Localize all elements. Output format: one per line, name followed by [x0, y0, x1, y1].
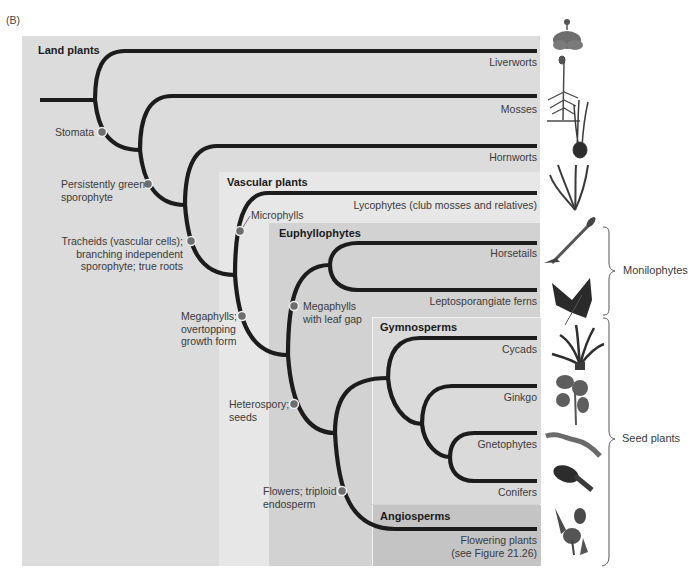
seed-plants-brace	[602, 318, 615, 566]
monilophytes-brace	[603, 227, 615, 315]
liverwort-illustration-icon	[553, 19, 583, 50]
hornwort-illustration-icon	[573, 100, 588, 158]
plant-illustrations	[0, 0, 700, 580]
flowering-plant-illustration-icon	[555, 508, 588, 555]
gnetophyte-illustration-icon	[546, 435, 600, 456]
group-label-seed-plants: Seed plants	[622, 432, 680, 444]
conifer-illustration-icon	[551, 462, 592, 490]
group-label-monilophytes: Monilophytes	[623, 264, 688, 276]
cycad-illustration-icon	[552, 325, 604, 370]
fern-illustration-icon	[552, 278, 592, 325]
lycophyte-illustration-icon	[550, 165, 588, 210]
horsetail-illustration-icon	[544, 215, 597, 263]
ginkgo-illustration-icon	[556, 375, 589, 425]
